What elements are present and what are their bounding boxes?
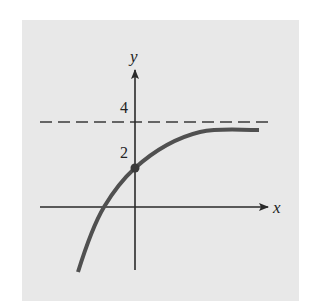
tick-label-4: 4 [120, 99, 128, 116]
graph: y x 4 2 [0, 0, 323, 308]
tick-label-2: 2 [120, 144, 128, 161]
y-intercept-point [131, 164, 140, 173]
function-curve [78, 130, 259, 273]
y-axis-label: y [128, 47, 138, 66]
x-axis-label: x [272, 198, 281, 217]
